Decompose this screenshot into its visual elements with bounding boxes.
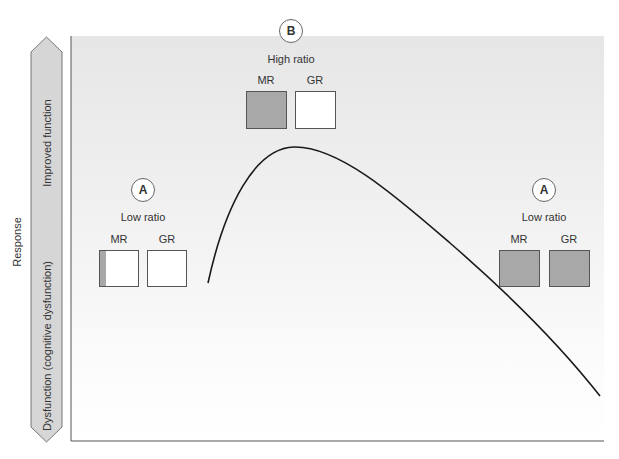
- group-a-right-gr-box: [549, 250, 590, 287]
- group-b-gr-label: GR: [295, 74, 335, 86]
- group-b-mr-label: MR: [246, 74, 286, 86]
- marker-a-left: A: [131, 178, 155, 202]
- arrow-label-improved-function: Improved function: [41, 93, 53, 193]
- arrow-label-dysfunction: Dysfunction (cognitive dysfunction): [41, 256, 53, 436]
- group-a-right-title: Low ratio: [504, 211, 584, 223]
- group-b-gr-box: [295, 91, 336, 129]
- group-a-left-gr-box: [147, 250, 187, 287]
- marker-a-right: A: [532, 178, 556, 202]
- y-axis-label: Response: [11, 212, 23, 272]
- group-b-title: High ratio: [251, 53, 331, 65]
- group-a-left-mr-label: MR: [99, 233, 139, 245]
- mr-fill-sliver: [100, 251, 106, 286]
- group-a-right-mr-label: MR: [499, 233, 539, 245]
- marker-b: B: [279, 19, 303, 43]
- group-a-left-title: Low ratio: [103, 211, 183, 223]
- diagram-frame: [0, 0, 619, 459]
- group-a-left-gr-label: GR: [147, 233, 187, 245]
- group-b-mr-box: [246, 91, 287, 129]
- group-a-right-mr-box: [499, 250, 540, 287]
- group-a-right-gr-label: GR: [549, 233, 589, 245]
- group-a-left-mr-box: [99, 250, 139, 287]
